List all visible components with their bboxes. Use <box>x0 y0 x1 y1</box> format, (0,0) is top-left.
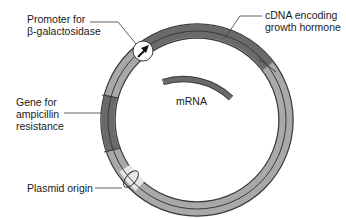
origin-label: Plasmid origin <box>27 182 93 194</box>
amp-label-line3: resistance <box>16 120 64 132</box>
amp-label-line1: Gene for <box>16 96 64 108</box>
promoter-label-line1: Promoter for <box>27 13 101 25</box>
cdna-label: cDNA encoding growth hormone <box>265 9 341 33</box>
promoter-label-line2: β-galactosidase <box>27 25 101 37</box>
amp-label-line2: ampicillin <box>16 108 64 120</box>
mrna-label-line1: mRNA <box>176 95 207 107</box>
promoter-label: Promoter for β-galactosidase <box>27 13 101 37</box>
cdna-label-line1: cDNA encoding <box>265 9 341 21</box>
cdna-label-line2: growth hormone <box>265 21 341 33</box>
origin-label-line1: Plasmid origin <box>27 182 93 194</box>
amp-label: Gene for ampicillin resistance <box>16 96 64 132</box>
mrna-label: mRNA <box>176 95 207 107</box>
